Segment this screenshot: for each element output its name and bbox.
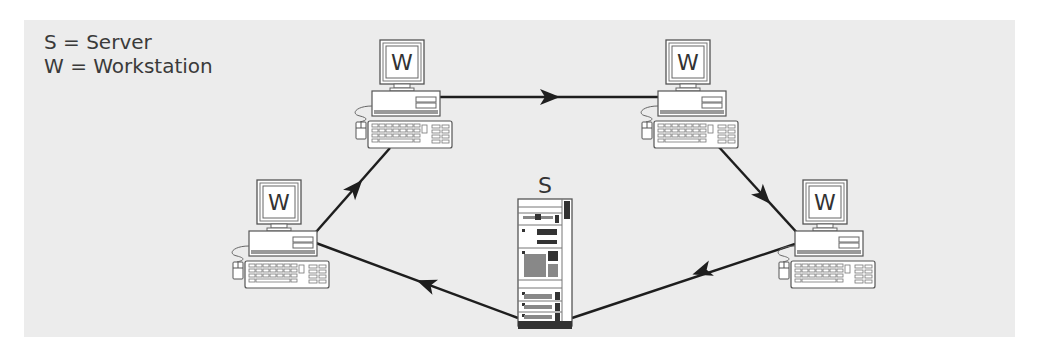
server: S: [518, 173, 572, 329]
workstation-top-left: W: [355, 40, 452, 148]
connection-ws-top-right-to-ws-right: [718, 146, 800, 236]
workstation-left: W: [232, 180, 329, 288]
workstation-right: W: [778, 180, 875, 288]
server-tower-icon: [518, 199, 572, 329]
network-diagram: W W W W S: [0, 0, 1039, 359]
workstation-letter: W: [391, 50, 413, 75]
workstation-letter: W: [677, 50, 699, 75]
arrow-icon: [414, 273, 438, 295]
connection-ws-right-to-server: [572, 244, 795, 318]
workstation-top-right: W: [641, 40, 738, 148]
workstation-letter: W: [268, 190, 290, 215]
server-letter: S: [538, 173, 552, 198]
workstation-letter: W: [814, 190, 836, 215]
